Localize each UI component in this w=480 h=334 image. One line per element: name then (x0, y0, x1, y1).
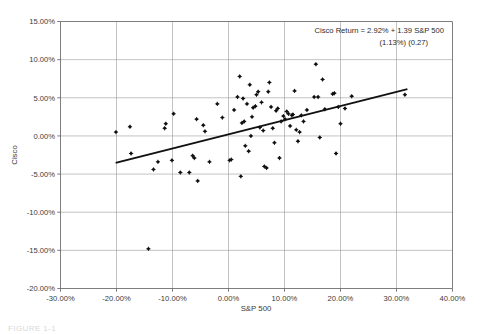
data-point (334, 151, 338, 155)
data-point (296, 139, 300, 143)
data-point-crossbar-v (194, 156, 195, 160)
y-tick-label: 15.00% (29, 17, 55, 26)
data-point-crossbar-v (205, 129, 206, 133)
data-point-crossbar-v (299, 130, 300, 134)
data-point (220, 116, 224, 120)
data-point-crossbar-v (272, 126, 273, 130)
data-point (215, 102, 219, 106)
data-point-crossbar-v (314, 95, 315, 99)
data-point (238, 74, 242, 78)
data-point-crossbar-v (286, 109, 287, 113)
data-point (301, 119, 305, 123)
data-point-crossbar-v (274, 141, 275, 145)
data-point (201, 123, 205, 127)
data-point-crossbar-v (283, 114, 284, 118)
data-point-crossbar-v (258, 90, 259, 94)
gridlines (61, 22, 453, 289)
data-point-crossbar-v (332, 92, 333, 96)
data-point (249, 134, 253, 138)
data-point-crossbar-v (318, 95, 319, 99)
data-point-crossbar-v (209, 160, 210, 164)
data-point (247, 149, 251, 153)
data-point-crossbar-v (247, 102, 248, 106)
x-axis-title: S&P 500 (241, 304, 272, 313)
data-point-crossbar-v (351, 94, 352, 98)
data-point-crossbar-v (196, 117, 197, 121)
x-tick-label: 10.00% (272, 294, 298, 303)
data-point (245, 102, 249, 106)
data-point (170, 158, 174, 162)
x-tick-label: 20.00% (328, 294, 354, 303)
y-tick-label: -20.00% (27, 284, 56, 293)
data-point (114, 130, 118, 134)
data-point-crossbar-v (229, 158, 230, 162)
y-tick-label: -5.00% (31, 170, 55, 179)
data-point-crossbar-v (189, 170, 190, 174)
data-point-crossbar-v (255, 104, 256, 108)
y-tick-label: 5.00% (33, 94, 55, 103)
data-point-crossbar-v (268, 90, 269, 94)
data-point-crossbar-v (180, 170, 181, 174)
data-point (235, 95, 239, 99)
data-point-crossbar-v (239, 74, 240, 78)
data-point-crossbar-v (345, 106, 346, 110)
data-point (314, 62, 318, 66)
data-point-crossbar-v (336, 151, 337, 155)
data-point (129, 151, 133, 155)
data-point-crossbar-v (334, 91, 335, 95)
data-point (172, 112, 176, 116)
data-point-crossbar-v (296, 128, 297, 132)
data-point-crossbar-v (252, 115, 253, 119)
data-point-crossbar-v (171, 158, 172, 162)
data-point-crossbar-v (292, 112, 293, 116)
figure-caption: FIGURE 1-1 (8, 324, 56, 333)
data-point (403, 93, 407, 97)
data-point (243, 144, 247, 148)
data-point-crossbar-v (244, 119, 245, 123)
data-point (164, 122, 168, 126)
data-point (267, 80, 271, 84)
plot-frame (61, 22, 453, 289)
x-tick-label: -30.00% (46, 294, 75, 303)
data-point-crossbar-v (279, 156, 280, 160)
data-point-crossbar-v (306, 108, 307, 112)
data-point (288, 124, 292, 128)
data-point-crossbar-v (222, 116, 223, 120)
data-point-crossbar-v (303, 119, 304, 123)
data-point-crossbar-v (266, 166, 267, 170)
data-point-crossbar-v (243, 96, 244, 100)
data-point-crossbar-v (340, 122, 341, 126)
data-point-crossbar-v (192, 154, 193, 158)
data-point-crossbar-v (237, 95, 238, 99)
data-point (271, 126, 275, 130)
x-tick-label: 30.00% (384, 294, 410, 303)
y-tick-label: -10.00% (27, 208, 56, 217)
data-point-crossbar-v (197, 179, 198, 183)
data-point-crossbar-v (231, 157, 232, 161)
y-axis-title: Cisco (10, 145, 19, 165)
data-point-crossbar-v (245, 144, 246, 148)
data-points (114, 62, 407, 251)
data-point-crossbar-v (248, 149, 249, 153)
data-point (259, 100, 263, 104)
data-point (320, 77, 324, 81)
data-point (163, 126, 167, 130)
data-point-crossbar-v (250, 134, 251, 138)
data-point (241, 96, 245, 100)
data-point-crossbar-v (148, 247, 149, 251)
scatter-chart: -30.00%-20.00%-10.00%0.00%10.00%20.00%30… (0, 0, 480, 334)
data-point (292, 89, 296, 93)
data-point (298, 130, 302, 134)
data-point-crossbar-v (276, 109, 277, 113)
data-point-crossbar-v (319, 135, 320, 139)
data-point (156, 160, 160, 164)
data-point (312, 95, 316, 99)
data-point-crossbar-v (256, 93, 257, 97)
data-point (128, 125, 132, 129)
data-point (196, 179, 200, 183)
x-tick-label: -10.00% (158, 294, 187, 303)
regression-equation: Cisco Return = 2.92% + 1.39 S&P 500 (315, 26, 444, 35)
data-point-crossbar-v (164, 126, 165, 130)
regression-standard-errors: (1.13%) (0.27) (379, 38, 428, 47)
data-point (338, 122, 342, 126)
